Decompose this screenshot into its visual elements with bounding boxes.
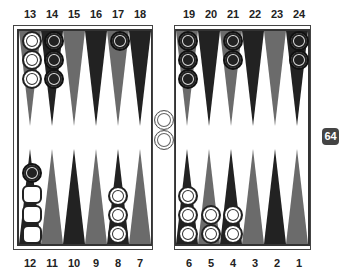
point-10 [63,149,85,244]
checker-white-bar[interactable] [154,110,174,130]
point-label-3: 3 [244,257,266,269]
checker-black-point-14[interactable] [44,31,64,51]
point-label-14: 14 [41,8,63,20]
doubling-cube[interactable]: 64 [322,128,339,145]
point-label-10: 10 [63,257,85,269]
checker-black-point-17[interactable] [110,31,130,51]
point-9 [85,149,107,244]
checker-white-point-6[interactable] [178,205,198,225]
point-label-20: 20 [200,8,222,20]
point-label-19: 19 [178,8,200,20]
point-1 [286,149,308,244]
checker-white-point-8[interactable] [108,186,128,206]
checker-black-point-14[interactable] [44,50,64,70]
checker-white-point-6[interactable] [178,186,198,206]
checker-white-point-6[interactable] [178,224,198,244]
checker-white-point-8[interactable] [108,205,128,225]
checker-black-point-14[interactable] [44,69,64,89]
point-label-17: 17 [107,8,129,20]
point-label-7: 7 [129,257,151,269]
point-label-6: 6 [178,257,200,269]
point-11 [41,149,63,244]
checker-ghost-point-12 [22,185,42,204]
checker-white-point-4[interactable] [223,224,243,244]
point-16 [85,31,107,126]
point-label-9: 9 [85,257,107,269]
point-label-23: 23 [266,8,288,20]
point-label-12: 12 [19,257,41,269]
point-label-2: 2 [266,257,288,269]
point-label-8: 8 [107,257,129,269]
point-3 [242,149,264,244]
point-label-15: 15 [63,8,85,20]
point-23 [264,31,286,126]
point-label-24: 24 [288,8,310,20]
point-22 [242,31,264,126]
checker-ghost-point-12 [22,225,42,244]
checker-ghost-point-12 [22,205,42,224]
checker-black-point-24[interactable] [289,50,309,70]
point-label-5: 5 [200,257,222,269]
point-label-22: 22 [244,8,266,20]
checker-black-point-24[interactable] [289,31,309,51]
point-label-1: 1 [288,257,310,269]
point-20 [198,31,220,126]
checker-white-point-13[interactable] [22,50,42,70]
checker-white-bar[interactable] [154,130,174,150]
checker-black-point-12[interactable] [22,163,42,183]
point-7 [129,149,151,244]
checker-white-point-4[interactable] [223,205,243,225]
checker-black-point-19[interactable] [178,31,198,51]
checker-white-point-13[interactable] [22,69,42,89]
checker-white-point-5[interactable] [201,224,221,244]
checker-black-point-19[interactable] [178,50,198,70]
point-label-4: 4 [222,257,244,269]
checker-white-point-13[interactable] [22,31,42,51]
point-label-18: 18 [129,8,151,20]
checker-black-point-21[interactable] [223,50,243,70]
checker-white-point-8[interactable] [108,224,128,244]
checker-white-point-5[interactable] [201,205,221,225]
checker-black-point-21[interactable] [223,31,243,51]
point-15 [63,31,85,126]
point-label-21: 21 [222,8,244,20]
point-label-13: 13 [19,8,41,20]
point-2 [264,149,286,244]
point-18 [129,31,151,126]
point-label-11: 11 [41,257,63,269]
point-label-16: 16 [85,8,107,20]
checker-black-point-19[interactable] [178,69,198,89]
